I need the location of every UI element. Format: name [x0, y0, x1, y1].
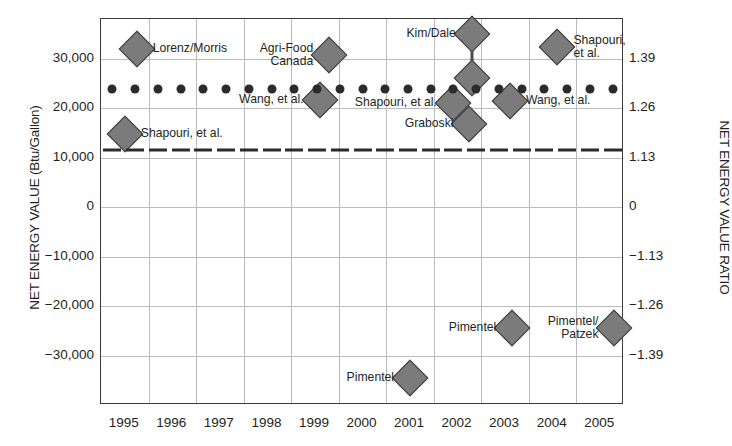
gridline-horizontal [101, 158, 622, 159]
reference-dotted-marker [131, 85, 140, 94]
reference-dashed-segment [217, 149, 235, 152]
data-point-label: Pimentel [347, 371, 394, 384]
reference-dashed-segment [376, 149, 394, 152]
data-point-label: Wang, et al. [239, 94, 304, 107]
reference-dotted-marker [585, 85, 594, 94]
data-point-label: Lorenz/Morris [153, 42, 228, 55]
reference-dotted-marker [176, 85, 185, 94]
gridline-vertical [291, 19, 292, 403]
data-point-label: Pimentel/ Patzek [548, 315, 599, 341]
reference-dashed-segment [240, 149, 258, 152]
reference-dashed-segment [194, 149, 212, 152]
reference-dotted-marker [472, 85, 481, 94]
reference-dotted-marker [335, 85, 344, 94]
reference-dotted-marker [290, 85, 299, 94]
reference-dashed-segment [604, 149, 622, 152]
data-point-diamond[interactable] [106, 116, 143, 153]
gridline-vertical [386, 19, 387, 403]
reference-dotted-marker [381, 85, 390, 94]
data-point-diamond[interactable] [539, 29, 576, 66]
reference-dotted-marker [358, 85, 367, 94]
reference-dotted-marker [494, 85, 503, 94]
data-point-label: Shapouri, et al. [141, 128, 223, 141]
data-point-diamond[interactable] [392, 359, 429, 396]
reference-dotted-marker [517, 85, 526, 94]
gridline-vertical [576, 19, 577, 403]
reference-dotted-marker [267, 85, 276, 94]
gridline-horizontal [101, 306, 622, 307]
x-tick-label-2005: 2005 [569, 416, 629, 430]
reference-dotted-marker [403, 85, 412, 94]
reference-dashed-segment [490, 149, 508, 152]
reference-dashed-segment [103, 149, 121, 152]
reference-dotted-marker [449, 85, 458, 94]
gridline-horizontal [101, 207, 622, 208]
data-point-label: Kim/Dale [406, 27, 455, 40]
gridline-vertical [244, 19, 245, 403]
data-point-label: Shapouri, et al. [355, 97, 437, 110]
reference-dotted-marker [222, 85, 231, 94]
gridline-vertical [149, 19, 150, 403]
data-point-diamond[interactable] [453, 15, 490, 52]
reference-dashed-segment [354, 149, 372, 152]
reference-dotted-marker [426, 85, 435, 94]
reference-dotted-marker [563, 85, 572, 94]
reference-dashed-segment [581, 149, 599, 152]
reference-dotted-marker [540, 85, 549, 94]
plot-area: Shapouri, et al.Lorenz/MorrisWang, et al… [100, 18, 623, 404]
reference-dashed-segment [558, 149, 576, 152]
reference-dotted-marker [153, 85, 162, 94]
reference-dotted-marker [244, 85, 253, 94]
gridline-vertical [529, 19, 530, 403]
data-point-label: Agri-Food Canada [260, 42, 314, 68]
gridline-horizontal [101, 257, 622, 258]
reference-dashed-segment [149, 149, 167, 152]
reference-dashed-segment [422, 149, 440, 152]
reference-dashed-segment [308, 149, 326, 152]
reference-dotted-marker [199, 85, 208, 94]
reference-dashed-segment [172, 149, 190, 152]
gridline-horizontal [101, 356, 622, 357]
reference-dashed-segment [331, 149, 349, 152]
data-point-diamond[interactable] [311, 37, 348, 74]
data-point-diamond[interactable] [494, 310, 531, 347]
reference-dashed-segment [535, 149, 553, 152]
reference-dashed-segment [399, 149, 417, 152]
reference-dotted-marker [108, 85, 117, 94]
gridline-horizontal [101, 59, 622, 60]
gridline-vertical [339, 19, 340, 403]
data-point-label: Pimentel [449, 322, 496, 335]
data-point-label: Wang, et al. [526, 94, 591, 107]
gridline-vertical [196, 19, 197, 403]
reference-dashed-segment [126, 149, 144, 152]
reference-dotted-marker [313, 85, 322, 94]
reference-dashed-segment [285, 149, 303, 152]
data-point-label: Shapouri, et al. [573, 34, 625, 60]
reference-dotted-marker [608, 85, 617, 94]
reference-dashed-segment [467, 149, 485, 152]
reference-dashed-segment [263, 149, 281, 152]
data-point-label: Graboski [405, 117, 454, 130]
reference-dashed-segment [513, 149, 531, 152]
reference-dashed-segment [444, 149, 462, 152]
gridline-vertical [434, 19, 435, 403]
